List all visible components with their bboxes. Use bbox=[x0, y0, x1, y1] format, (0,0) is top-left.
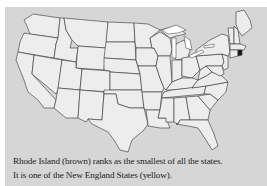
state-florida bbox=[176, 120, 218, 150]
state-north-dakota bbox=[106, 22, 135, 42]
state-iowa bbox=[136, 48, 158, 66]
state-massachusetts bbox=[230, 44, 246, 50]
caption-line-2: It is one of the New England States (yel… bbox=[13, 168, 267, 182]
state-new-mexico bbox=[78, 90, 104, 122]
state-arizona bbox=[54, 88, 80, 118]
state-connecticut bbox=[230, 50, 238, 58]
state-wyoming bbox=[76, 46, 106, 70]
lake-michigan bbox=[172, 38, 176, 58]
state-south-dakota bbox=[104, 42, 136, 60]
state-kansas bbox=[110, 72, 142, 90]
map-caption: Rhode Island (brown) ranks as the smalle… bbox=[13, 154, 267, 182]
state-colorado bbox=[80, 69, 110, 92]
state-rhode-island bbox=[238, 50, 242, 56]
state-arkansas bbox=[142, 92, 162, 110]
caption-line-1: Rhode Island (brown) ranks as the smalle… bbox=[13, 154, 267, 168]
